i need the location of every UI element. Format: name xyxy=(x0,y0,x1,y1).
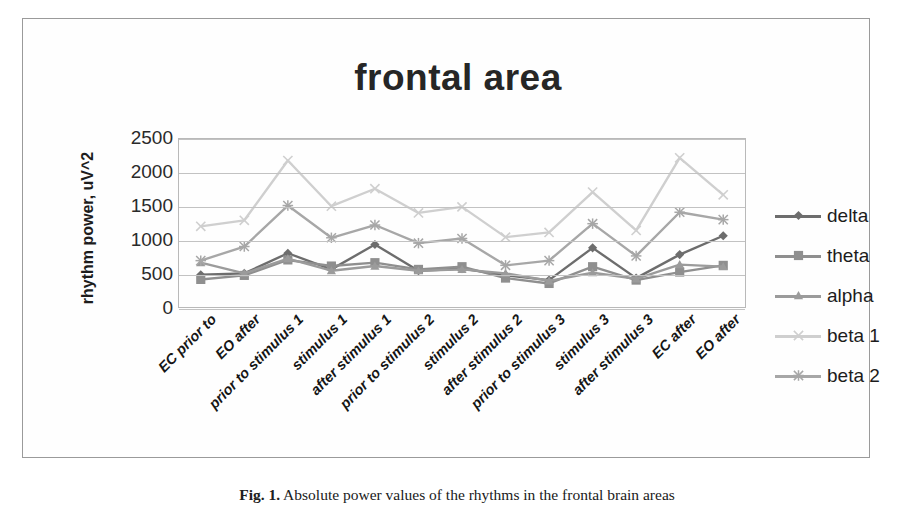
legend-marker-asterisk-icon xyxy=(775,367,821,385)
data-point-marker xyxy=(794,211,803,220)
data-point-marker xyxy=(794,331,803,340)
legend-item-beta-2[interactable]: beta 2 xyxy=(775,359,880,393)
legend-marker-triangle-icon xyxy=(775,287,821,305)
y-tick-2000: 2000 xyxy=(131,161,173,183)
y-tick-0: 0 xyxy=(162,297,173,319)
figure-number: Fig. 1. xyxy=(239,486,280,503)
y-tick-2500: 2500 xyxy=(131,127,173,149)
legend-marker-glyph xyxy=(792,369,805,382)
data-point-marker xyxy=(196,275,205,284)
gridline xyxy=(179,173,745,174)
data-point-marker xyxy=(283,156,292,165)
legend-marker-glyph xyxy=(792,329,805,342)
data-point-marker xyxy=(283,200,294,210)
gridline xyxy=(179,241,745,242)
legend-marker-square-icon xyxy=(775,247,821,265)
legend-label: beta 1 xyxy=(827,325,880,347)
data-point-marker xyxy=(544,255,555,265)
legend-marker-x-icon xyxy=(775,327,821,345)
figure-page: frontal area rhythm power, uV^2 05001000… xyxy=(0,0,914,520)
legend-label: beta 2 xyxy=(827,365,880,387)
legend-marker-glyph xyxy=(792,289,805,302)
x-tick-label: after stimulus 3 xyxy=(569,311,656,398)
series-beta-1 xyxy=(196,153,728,241)
figure-frame: frontal area rhythm power, uV^2 05001000… xyxy=(22,18,870,458)
figure-caption-text: Absolute power values of the rhythms in … xyxy=(283,486,675,503)
gridline xyxy=(179,207,745,208)
legend-item-delta[interactable]: delta xyxy=(775,199,868,233)
data-point-marker xyxy=(370,220,381,230)
data-point-marker xyxy=(718,214,729,224)
y-axis-title: rhythm power, uV^2 xyxy=(79,118,97,338)
figure-caption: Fig. 1. Absolute power values of the rhy… xyxy=(0,486,914,504)
data-point-marker xyxy=(674,207,685,217)
data-point-marker xyxy=(675,153,684,162)
legend-item-beta-1[interactable]: beta 1 xyxy=(775,319,880,353)
legend-marker-glyph xyxy=(792,249,805,262)
data-point-marker xyxy=(631,251,642,261)
data-point-marker xyxy=(675,250,684,259)
y-tick-1000: 1000 xyxy=(131,229,173,251)
data-point-marker xyxy=(588,188,597,197)
legend-marker-diamond-icon xyxy=(775,207,821,225)
gridline xyxy=(179,139,745,140)
data-point-marker xyxy=(794,291,803,299)
data-point-marker xyxy=(719,190,728,199)
chart-title: frontal area xyxy=(223,52,693,104)
series-line xyxy=(201,158,723,237)
data-point-marker xyxy=(413,238,424,248)
chart-series-layer xyxy=(179,139,745,307)
data-point-marker xyxy=(587,218,598,228)
y-tick-500: 500 xyxy=(141,263,173,285)
data-point-marker xyxy=(719,231,728,240)
chart-legend: deltathetaalphabeta 1beta 2 xyxy=(775,199,914,409)
data-point-marker xyxy=(794,251,803,260)
legend-label: delta xyxy=(827,205,868,227)
data-point-marker xyxy=(195,255,206,265)
y-axis-tick-labels: 05001000150020002500 xyxy=(101,129,173,319)
data-point-marker xyxy=(793,370,804,381)
plot-area xyxy=(178,138,746,308)
legend-marker-glyph xyxy=(792,209,805,222)
x-tick-label: EC after xyxy=(649,311,700,362)
data-point-marker xyxy=(239,241,250,251)
data-point-marker xyxy=(632,226,641,235)
legend-item-theta[interactable]: theta xyxy=(775,239,869,273)
legend-label: alpha xyxy=(827,285,874,307)
x-tick-label: EC prior to xyxy=(155,311,219,375)
legend-label: theta xyxy=(827,245,869,267)
gridline xyxy=(179,309,745,310)
x-tick-label: EO after xyxy=(692,311,743,362)
y-tick-1500: 1500 xyxy=(131,195,173,217)
data-point-marker xyxy=(370,184,379,193)
data-point-marker xyxy=(457,233,468,243)
gridline xyxy=(179,275,745,276)
data-point-marker xyxy=(500,260,511,270)
x-axis-tick-labels: EC prior toEO afterprior to stimulus 1st… xyxy=(178,311,746,461)
legend-item-alpha[interactable]: alpha xyxy=(775,279,874,313)
